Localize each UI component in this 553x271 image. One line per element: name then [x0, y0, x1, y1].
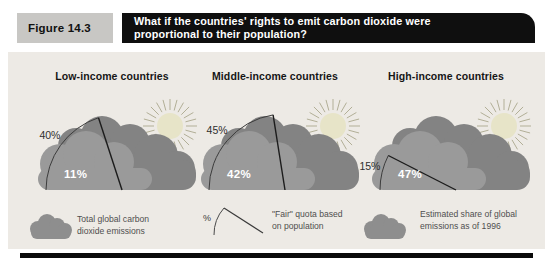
figure-14-3: Figure 14.3 What if the countries' right… — [0, 0, 553, 271]
panel-middle-income: Middle-income countries 45% 42% — [185, 62, 365, 202]
legend-fair-quota-label: "Fair" quota based on population — [272, 209, 343, 232]
high-income-cloud-chart — [356, 62, 536, 202]
legend-cloud-icon — [28, 213, 74, 239]
bottom-rule — [20, 253, 533, 258]
figure-title-line1: What if the countries' rights to emit ca… — [122, 15, 535, 28]
quota-percent-label: 45% — [207, 124, 228, 136]
quota-percent-label: 40% — [39, 129, 60, 141]
figure-number-text: Figure 14.3 — [17, 22, 91, 34]
figure-title-box: What if the countries' rights to emit ca… — [122, 13, 535, 43]
panel-high-income: High-income countries 15% 47% — [356, 62, 536, 202]
share-percent-label: 47% — [398, 168, 422, 180]
panel-low-income: Low-income countries 40% 11% — [22, 62, 202, 202]
figure-number-label: Figure 14.3 — [17, 13, 113, 43]
legend-text-line: Total global carbon — [77, 214, 149, 226]
figure-title-line2: proportional to their population? — [122, 28, 535, 41]
legend-emission-share-label: Estimated share of global emissions as o… — [420, 209, 517, 232]
legend-total-emissions-label: Total global carbon dioxide emissions — [77, 214, 149, 237]
panel-title: Middle-income countries — [185, 70, 365, 82]
legend-text-line: "Fair" quota based — [272, 209, 343, 221]
legend-cloud-icon — [362, 213, 408, 239]
share-percent-label: 42% — [227, 168, 251, 180]
share-percent-label: 11% — [64, 168, 87, 180]
percent-sign: % — [203, 213, 211, 223]
quota-percent-label: 15% — [359, 160, 380, 172]
legend-wedge-icon — [212, 205, 266, 237]
panel-title: High-income countries — [356, 70, 536, 82]
legend-text-line: dioxide emissions — [77, 226, 149, 238]
legend-text-line: emissions as of 1996 — [420, 221, 517, 233]
legend-text-line: Estimated share of global — [420, 209, 517, 221]
legend-text-line: on population — [272, 221, 343, 233]
panel-title: Low-income countries — [22, 70, 202, 82]
